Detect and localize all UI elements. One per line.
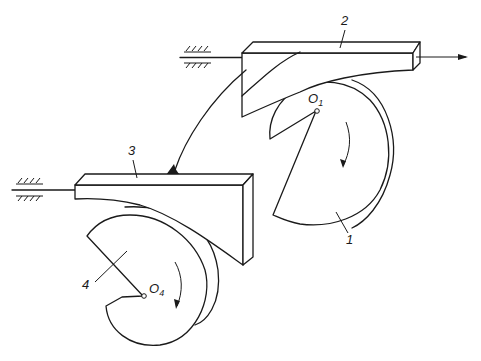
pivot-o1-icon bbox=[315, 109, 320, 114]
pivot-o4-icon bbox=[142, 294, 147, 299]
slider-3-bar-end bbox=[243, 174, 253, 265]
slider-3-bar-top bbox=[75, 174, 253, 185]
output-arrowhead-icon bbox=[458, 54, 468, 60]
cam-4-face bbox=[87, 215, 207, 345]
connecting-link bbox=[175, 70, 246, 170]
mechanism-diagram: 2 3 1 4 O1 O4 bbox=[0, 0, 481, 361]
label-part-1: 1 bbox=[346, 232, 353, 247]
slider-2-bar-top bbox=[242, 42, 420, 53]
label-part-2: 2 bbox=[340, 13, 349, 28]
label-part-4: 4 bbox=[82, 277, 89, 292]
cam-1-face bbox=[270, 82, 389, 225]
cam-1 bbox=[270, 80, 394, 233]
label-part-3: 3 bbox=[128, 143, 136, 158]
